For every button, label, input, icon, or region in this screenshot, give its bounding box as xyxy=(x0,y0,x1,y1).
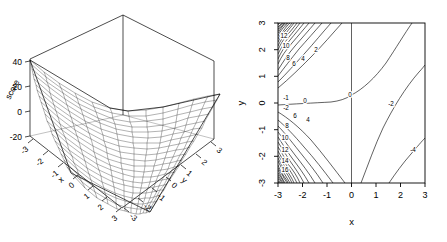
contour-y-axis-label: y xyxy=(235,100,246,105)
contour-plot-panel: 0 0 0 0 -1 -1 -2 -2 2 2 xyxy=(223,0,447,242)
y-tick-label-m1: -1 xyxy=(156,192,168,204)
contour-level-12-upper xyxy=(278,23,304,59)
cy-tick-1: 1 xyxy=(257,74,267,79)
cy-tick-m1: -1 xyxy=(257,126,267,134)
x-tick-label-m2: -2 xyxy=(34,156,46,168)
cy-tick-2: 2 xyxy=(257,47,267,52)
cx-tick-m2: -2 xyxy=(298,190,306,200)
z-tick-label-0: 0 xyxy=(17,107,22,117)
contour-label-16-low: 16 xyxy=(281,166,289,173)
x-tick-label-0: 0 xyxy=(67,180,77,190)
z-tick-20 xyxy=(25,86,30,87)
box-bottom-front-left xyxy=(30,136,122,208)
contour-label-0-left: 0 xyxy=(303,97,307,104)
figure-root: 40 20 0 -20 score -3 -2 -1 0 1 2 3 x xyxy=(0,0,447,242)
z-tick-label-minus20: -20 xyxy=(10,132,23,142)
contour-label-m1: -1 xyxy=(283,94,289,101)
contour-label-8-up: 8 xyxy=(286,54,290,61)
contour-label-12-up: 12 xyxy=(280,32,288,39)
x-tick-label-m3: -3 xyxy=(19,144,31,156)
y-tick-label-0: 0 xyxy=(170,181,180,191)
y-tick-label-2: 2 xyxy=(200,158,210,168)
y-axis-label: y xyxy=(180,175,190,186)
z-tick-minus20 xyxy=(25,136,30,137)
contour-label-8-low: 8 xyxy=(285,122,289,129)
contour-x-axis-ticks xyxy=(278,183,425,187)
contour-x-axis-label: x xyxy=(349,216,354,227)
box-bottom-back-left xyxy=(30,115,123,136)
surface-edge-back xyxy=(30,60,220,111)
x-tick-label-1: 1 xyxy=(82,191,92,201)
contour-label-12-low: 12 xyxy=(281,146,289,153)
cy-tick-3: 3 xyxy=(257,20,267,25)
cy-tick-m3: -3 xyxy=(257,179,267,187)
contour-label-4-up: 4 xyxy=(301,55,305,62)
persp-surface-mesh xyxy=(30,60,220,214)
y-tick-label-m3: -3 xyxy=(128,212,140,224)
contour-label-6-up: 6 xyxy=(292,60,296,67)
contour-y-tick-labels: -3 -2 -1 0 1 2 3 xyxy=(257,20,267,187)
persp-x-axis xyxy=(28,139,121,212)
cx-tick-2: 2 xyxy=(398,190,403,200)
contour-x-tick-labels: -3 -2 -1 0 1 2 3 xyxy=(274,190,428,200)
contour-label-10-up: 10 xyxy=(282,42,290,49)
contour-label-4-low: 4 xyxy=(306,116,310,123)
contour-level-m4 xyxy=(389,138,425,183)
cy-tick-m2: -2 xyxy=(257,152,267,160)
cx-tick-m1: -1 xyxy=(323,190,331,200)
x-tick-label-2: 2 xyxy=(96,202,106,212)
x-axis-label: x xyxy=(56,174,66,185)
x-tick-label-3: 3 xyxy=(110,213,120,223)
contour-label-m4-right: -4 xyxy=(410,146,416,153)
persp-plot-svg: 40 20 0 -20 score -3 -2 -1 0 1 2 3 x xyxy=(0,0,224,242)
contour-level-0-left xyxy=(278,95,352,105)
z-tick-40 xyxy=(25,61,30,62)
cy-tick-0: 0 xyxy=(257,100,267,105)
box-top-edge-left xyxy=(30,15,123,59)
contour-label-14-low: 14 xyxy=(281,157,289,164)
contour-level-labels: 0 0 0 0 -1 -1 -2 -2 2 2 xyxy=(280,32,416,173)
contour-level-m2 xyxy=(361,65,425,183)
contour-lines xyxy=(278,23,425,183)
cx-tick-1: 1 xyxy=(373,190,378,200)
persp-plot-panel: 40 20 0 -20 score -3 -2 -1 0 1 2 3 x xyxy=(0,0,224,242)
box-top-edge-right xyxy=(123,15,214,61)
contour-label-2-up: 2 xyxy=(314,46,318,53)
z-tick-0 xyxy=(25,111,30,112)
contour-plot-svg: 0 0 0 0 -1 -1 -2 -2 2 2 xyxy=(223,0,447,242)
cx-tick-m3: -3 xyxy=(274,190,282,200)
z-tick-label-40: 40 xyxy=(13,57,23,67)
cx-tick-3: 3 xyxy=(422,190,427,200)
contour-label-10-low: 10 xyxy=(281,134,289,141)
contour-label-m2: -2 xyxy=(283,104,289,111)
contour-y-axis-ticks xyxy=(274,23,278,183)
contour-level-0-right xyxy=(352,23,413,95)
contour-label-0-mid: 0 xyxy=(348,91,352,98)
contour-label-m2-right: -2 xyxy=(388,100,394,107)
persp-z-axis xyxy=(25,61,30,137)
cx-tick-0: 0 xyxy=(349,190,354,200)
contour-label-6-low: 6 xyxy=(293,112,297,119)
surface-edge-front xyxy=(71,173,150,212)
